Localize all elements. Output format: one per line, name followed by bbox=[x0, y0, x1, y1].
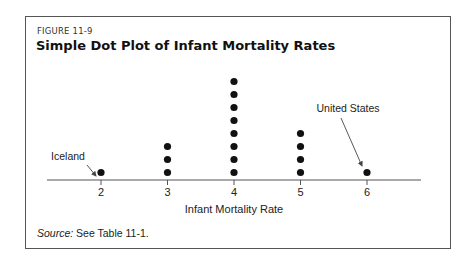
source-label: Source: bbox=[37, 227, 73, 239]
annotation-arrow-icon bbox=[87, 165, 96, 176]
data-dots bbox=[97, 78, 370, 176]
x-axis-label: Infant Mortality Rate bbox=[185, 203, 283, 215]
data-dot bbox=[164, 169, 171, 176]
data-dot bbox=[297, 169, 304, 176]
source-note: Source: See Table 11-1. bbox=[37, 227, 149, 239]
data-dot bbox=[230, 117, 237, 124]
data-dot bbox=[97, 169, 104, 176]
data-dot bbox=[230, 156, 237, 163]
data-dot bbox=[230, 130, 237, 137]
x-tick-label: 5 bbox=[297, 186, 303, 198]
source-text: See Table 11-1. bbox=[73, 227, 149, 239]
data-dot bbox=[297, 156, 304, 163]
annotation-label: United States bbox=[316, 102, 379, 114]
annotations: IcelandUnited States bbox=[51, 102, 379, 176]
x-tick-label: 6 bbox=[364, 186, 370, 198]
data-dot bbox=[230, 143, 237, 150]
data-dot bbox=[164, 143, 171, 150]
x-tick-label: 3 bbox=[164, 186, 170, 198]
data-dot bbox=[230, 78, 237, 85]
annotation-arrow-icon bbox=[341, 118, 362, 166]
data-dot bbox=[164, 156, 171, 163]
x-tick-label: 2 bbox=[98, 186, 104, 198]
data-dot bbox=[297, 143, 304, 150]
x-tick-label: 4 bbox=[231, 186, 237, 198]
x-axis-ticks: 23456 bbox=[98, 180, 370, 198]
dot-plot: 23456 IcelandUnited States Infant Mortal… bbox=[0, 0, 472, 265]
annotation-label: Iceland bbox=[51, 150, 85, 162]
data-dot bbox=[230, 104, 237, 111]
data-dot bbox=[230, 169, 237, 176]
data-dot bbox=[363, 169, 370, 176]
data-dot bbox=[297, 130, 304, 137]
data-dot bbox=[230, 91, 237, 98]
